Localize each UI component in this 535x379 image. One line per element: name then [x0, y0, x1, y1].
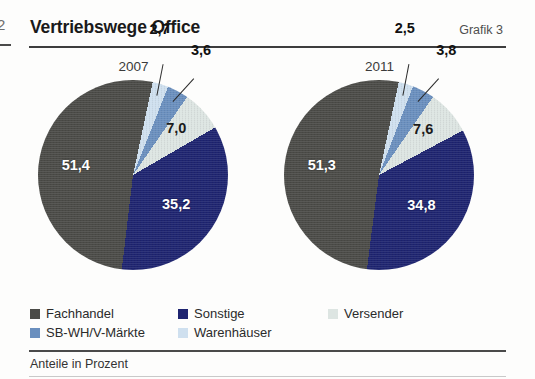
title-divider	[29, 46, 506, 48]
charts-container: 2007 2,73,67,035,251,4 2011 2,53,87,634,…	[0, 52, 535, 297]
legend-swatch-icon	[178, 309, 188, 319]
legend-swatch-icon	[30, 328, 40, 338]
pie-slice-label: 34,8	[407, 197, 435, 213]
pie-slice-label: 3,8	[436, 42, 456, 58]
folio-rule	[0, 44, 11, 46]
pie-slice-label: 51,3	[308, 157, 336, 173]
legend-item[interactable]: Versender	[328, 306, 403, 321]
legend: FachhandelSonstigeVersenderSB-WH/V-Märkt…	[30, 306, 510, 346]
pie-chart-2011: 2011 2,53,87,634,851,3	[272, 52, 522, 297]
page-title: Vertriebswege Office	[30, 17, 200, 38]
pie-slices-2011	[284, 80, 474, 270]
pie-slice-label: 2,5	[395, 20, 415, 36]
pie-title-2011: 2011	[272, 59, 487, 74]
legend-item[interactable]: Fachhandel	[30, 306, 114, 321]
pie-title-2007: 2007	[26, 59, 241, 74]
pie-chart-2007: 2007 2,73,67,035,251,4	[26, 52, 276, 297]
figure-root: 2 Vertriebswege Office Grafik 3 2007 2,7…	[0, 0, 535, 379]
pie-area-2011	[284, 80, 474, 270]
pie-slice-label: 7,0	[166, 120, 186, 136]
figure-number: Grafik 3	[459, 23, 503, 37]
pie-area-2007	[38, 80, 228, 270]
legend-swatch-icon	[30, 309, 40, 319]
legend-item[interactable]: SB-WH/V-Märkte	[30, 325, 145, 340]
pie-slice-label: 7,6	[413, 121, 433, 137]
legend-swatch-icon	[178, 328, 188, 338]
pie-slice-label: 35,2	[162, 196, 190, 212]
bottom-divider	[29, 376, 506, 377]
legend-item-label: SB-WH/V-Märkte	[46, 325, 145, 340]
pie-slice-label: 2,7	[149, 21, 169, 37]
legend-item-label: Fachhandel	[46, 306, 114, 321]
legend-item-label: Sonstige	[194, 306, 245, 321]
legend-item-label: Versender	[344, 306, 403, 321]
legend-item[interactable]: Sonstige	[178, 306, 245, 321]
legend-divider	[29, 350, 506, 352]
legend-item-label: Warenhäuser	[194, 325, 272, 340]
pie-slice-label: 3,6	[191, 42, 211, 58]
footnote: Anteile in Prozent	[30, 357, 128, 371]
pie-slice-label: 51,4	[62, 157, 90, 173]
page-folio: 2	[0, 16, 5, 33]
legend-item[interactable]: Warenhäuser	[178, 325, 272, 340]
legend-swatch-icon	[328, 309, 338, 319]
pie-slices-2007	[38, 80, 228, 270]
